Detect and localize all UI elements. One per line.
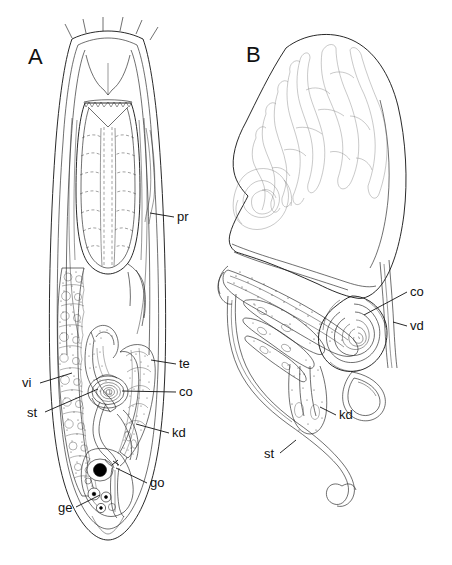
label-kd-b: kd <box>339 407 353 422</box>
figure-canvas: A B pr te co kd go ge vi st co vd <box>0 0 452 565</box>
label-go: go <box>150 475 164 490</box>
label-st-a: st <box>27 405 38 420</box>
label-te: te <box>179 356 190 371</box>
anatomical-figure-svg: A B pr te co kd go ge vi st co vd <box>0 0 452 565</box>
label-ge: ge <box>58 500 72 515</box>
label-vi: vi <box>22 375 32 390</box>
label-co-a: co <box>179 384 193 399</box>
figure-background <box>0 0 452 565</box>
label-co-b: co <box>410 284 424 299</box>
panel-letter-a: A <box>28 44 43 69</box>
label-pr: pr <box>177 209 189 224</box>
label-st-b: st <box>264 446 275 461</box>
label-kd-a: kd <box>172 425 186 440</box>
label-vd: vd <box>410 318 424 333</box>
panel-letter-b: B <box>246 42 261 67</box>
